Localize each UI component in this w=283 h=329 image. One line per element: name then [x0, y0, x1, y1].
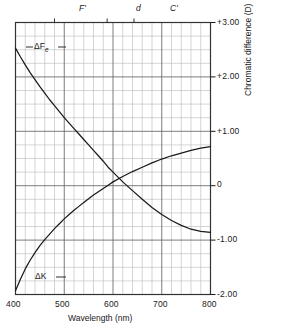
x-axis-title: Wavelength (nm)	[68, 313, 132, 323]
spectral-label-c-prime: C′	[170, 4, 178, 13]
curve-label-delta-fe-main: ΔF	[34, 41, 45, 51]
spectral-label-f-prime: F′	[79, 4, 86, 13]
y-axis-title: Chromatic difference (D)	[243, 0, 253, 96]
y-tick-label-5: -2.00	[217, 290, 237, 299]
x-tick-label-0: 400	[6, 300, 21, 309]
y-tick-label-2: +1.00	[217, 127, 240, 136]
chromatic-difference-chart: F′ d C′ ΔFe ΔK 400 500 600 700 800 +3.00…	[0, 0, 283, 329]
x-tick-label-1: 500	[55, 300, 70, 309]
curve-label-delta-k: ΔK	[35, 272, 46, 281]
y-tick-label-1: +2.00	[217, 72, 240, 81]
curve-label-delta-fe: ΔFe	[34, 42, 49, 53]
x-tick-label-4: 800	[202, 300, 217, 309]
y-tick-label-4: -1.00	[217, 235, 237, 244]
y-axis-tick-marks	[211, 23, 216, 295]
y-tick-label-0: +3.00	[217, 18, 240, 27]
x-tick-label-2: 600	[104, 300, 119, 309]
spectral-label-d: d	[136, 4, 141, 13]
y-tick-label-3: 0	[217, 180, 222, 189]
x-tick-label-3: 700	[153, 300, 168, 309]
curve-label-delta-fe-sub: e	[45, 46, 49, 53]
